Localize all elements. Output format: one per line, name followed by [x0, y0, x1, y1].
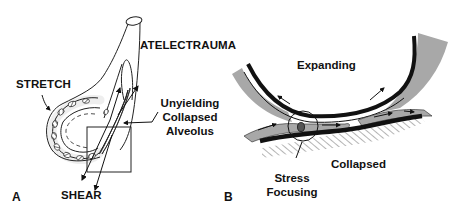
collapsed-label: Collapsed: [331, 157, 386, 171]
figure-artwork: [0, 0, 458, 209]
atelectrauma-label: ATELECTRAUMA: [140, 40, 236, 52]
expanding-label: Expanding: [297, 58, 356, 72]
unyielding-collapsed-alveolus-label: Unyielding Collapsed Alveolus: [155, 96, 225, 138]
panel-b-diagram: [232, 33, 448, 158]
stress-line-2: Focusing: [262, 185, 322, 199]
stress-focusing-label: Stress Focusing: [262, 171, 322, 199]
unyielding-line-2: Collapsed: [155, 110, 225, 124]
panel-a-letter: A: [12, 191, 21, 203]
shear-label: SHEAR: [61, 190, 102, 202]
unyielding-line-3: Alveolus: [155, 124, 225, 138]
alveolar-injury-figure: ATELECTRAUMA STRETCH SHEAR Unyielding Co…: [0, 0, 458, 209]
stress-line-1: Stress: [262, 171, 322, 185]
panel-b-letter: B: [224, 191, 233, 203]
stretch-label: STRETCH: [16, 79, 71, 91]
unyielding-line-1: Unyielding: [155, 96, 225, 110]
